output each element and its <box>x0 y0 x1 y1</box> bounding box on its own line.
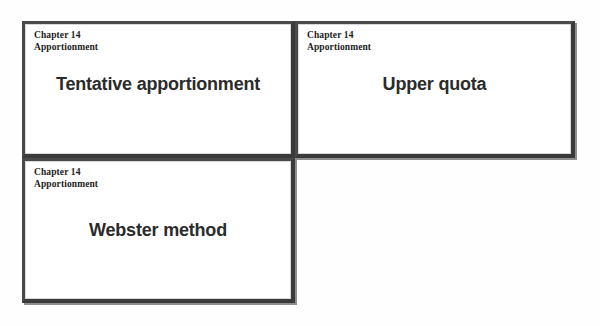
slide-header: Chapter 14 Apportionment <box>34 167 98 190</box>
slide-header-topic: Apportionment <box>307 42 371 54</box>
empty-slide-cell <box>295 158 575 303</box>
slide-title: Webster method <box>25 220 291 241</box>
slide-header-topic: Apportionment <box>34 42 98 54</box>
slide-title: Upper quota <box>298 74 571 95</box>
slide-header-topic: Apportionment <box>34 179 98 191</box>
slide-webster-method[interactable]: Chapter 14 Apportionment Webster method <box>22 158 295 303</box>
slide-header: Chapter 14 Apportionment <box>34 30 98 53</box>
slide-header-chapter: Chapter 14 <box>34 167 98 179</box>
slide-grid: Chapter 14 Apportionment Tentative appor… <box>0 0 600 326</box>
slide-title: Tentative apportionment <box>25 74 291 95</box>
slide-header-chapter: Chapter 14 <box>34 30 98 42</box>
slide-header-chapter: Chapter 14 <box>307 30 371 42</box>
slide-header: Chapter 14 Apportionment <box>307 30 371 53</box>
slide-tentative-apportionment[interactable]: Chapter 14 Apportionment Tentative appor… <box>22 21 295 158</box>
slide-upper-quota[interactable]: Chapter 14 Apportionment Upper quota <box>295 21 575 158</box>
